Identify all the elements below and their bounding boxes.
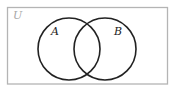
venn-diagram: U A B [0,0,172,93]
universe-label: U [13,9,23,22]
universe-rectangle [8,8,168,85]
set-a-label: A [50,25,59,38]
set-b-label: B [113,25,122,38]
